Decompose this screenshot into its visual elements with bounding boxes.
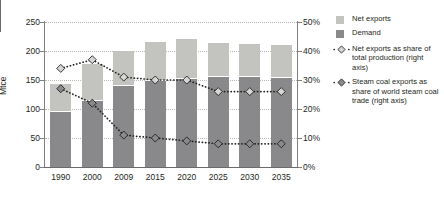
- y-tick-right: [298, 22, 302, 23]
- x-tick: [0, 28, 1, 32]
- chart-legend: Net exportsDemandNet exports as share of…: [333, 14, 441, 108]
- y-tick-left-label: 200: [26, 46, 40, 56]
- line-marker-light: [277, 88, 285, 96]
- y-tick-left: [40, 109, 44, 110]
- legend-item[interactable]: Steam coal exports as share of world ste…: [333, 77, 441, 105]
- y-tick-right-label: 50%: [303, 17, 320, 27]
- y-tick-left: [40, 51, 44, 52]
- line-marker-light: [246, 88, 254, 96]
- x-axis-label: 2030: [240, 172, 259, 182]
- y-tick-left-label: 0: [35, 162, 40, 172]
- y-tick-right: [298, 80, 302, 81]
- x-axis-label: 2025: [209, 172, 228, 182]
- line-marker-dark: [214, 140, 222, 148]
- y-tick-left-label: 150: [26, 75, 40, 85]
- y-tick-left: [40, 138, 44, 139]
- legend-label: Net exports: [352, 14, 441, 23]
- y-tick-right: [298, 167, 302, 168]
- y-tick-right-label: 40%: [303, 46, 320, 56]
- y-tick-right: [298, 109, 302, 110]
- line-marker-dark: [183, 137, 191, 145]
- y-tick-left-label: 250: [26, 17, 40, 27]
- legend-label: Steam coal exports as share of world ste…: [352, 77, 441, 105]
- line-marker-dark: [277, 140, 285, 148]
- y-tick-left: [40, 80, 44, 81]
- x-axis-label: 1990: [51, 172, 70, 182]
- legend-item[interactable]: Demand: [333, 28, 441, 39]
- line-marker-light: [151, 76, 159, 84]
- x-axis-line: [44, 167, 298, 168]
- line-marker-light: [120, 73, 128, 81]
- legend-label: Demand: [352, 28, 441, 37]
- line-marker-dark: [57, 85, 65, 93]
- y-tick-right: [298, 51, 302, 52]
- line-marker-dark: [246, 140, 254, 148]
- x-axis-label: 2015: [146, 172, 165, 182]
- line-path: [61, 60, 282, 92]
- line-marker-light: [214, 88, 222, 96]
- y-tick-left-label: 100: [26, 104, 40, 114]
- y-tick-left: [40, 167, 44, 168]
- x-axis-label: 2000: [83, 172, 102, 182]
- y-tick-right-label: 20%: [303, 104, 320, 114]
- legend-marker-dark-icon: [333, 78, 350, 87]
- y-axis-right-line: [297, 21, 298, 168]
- line-marker-dark: [88, 99, 96, 107]
- y-tick-right-label: 10%: [303, 133, 320, 143]
- y-tick-left-label: 50: [31, 133, 40, 143]
- y-tick-right: [298, 138, 302, 139]
- y-tick-left: [40, 22, 44, 23]
- legend-label: Net exports as share of total production…: [352, 44, 441, 72]
- legend-marker-light-icon: [333, 45, 350, 54]
- line-marker-light: [183, 76, 191, 84]
- line-series-layer: [45, 22, 297, 167]
- line-marker-light: [57, 64, 65, 72]
- y-tick-right-label: 0%: [303, 162, 315, 172]
- legend-item[interactable]: Net exports as share of total production…: [333, 44, 441, 72]
- line-path: [61, 89, 282, 144]
- x-axis-label: 2009: [114, 172, 133, 182]
- line-marker-light: [88, 56, 96, 64]
- y-tick-right-label: 30%: [303, 75, 320, 85]
- legend-swatch-icon: [336, 16, 344, 24]
- legend-swatch-icon: [336, 30, 344, 38]
- legend-item[interactable]: Net exports: [333, 14, 441, 25]
- line-marker-dark: [151, 134, 159, 142]
- y-axis-title-left: Mtce: [0, 77, 8, 95]
- x-axis-label: 2035: [272, 172, 291, 182]
- x-axis-label: 2020: [177, 172, 196, 182]
- chart-figure: Mtce 050100150200250 0%10%20%30%40%50% 1…: [0, 0, 444, 205]
